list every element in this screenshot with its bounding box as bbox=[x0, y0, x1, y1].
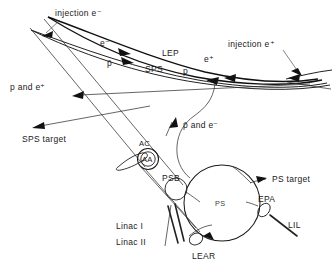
diagram-canvas: injection e⁻ injection e⁺ e⁻ LEP p̄ SPS … bbox=[0, 0, 333, 270]
injection-positron-arrowhead bbox=[291, 68, 302, 76]
label-antiproton: p̄ bbox=[107, 58, 112, 68]
pbar-electron-feed-group bbox=[166, 84, 215, 178]
label-p-and-epositron: p and e⁺ bbox=[10, 82, 46, 92]
psb-to-ps-link bbox=[186, 192, 200, 202]
label-sps-target: SPS target bbox=[22, 134, 66, 144]
label-psb: PSB bbox=[162, 173, 180, 183]
lear-ring-ellipse bbox=[187, 231, 205, 247]
sps-ring-arc-upper bbox=[31, 30, 327, 87]
label-epa: EPA bbox=[258, 194, 275, 204]
lear-group bbox=[187, 225, 214, 247]
label-injection-electron: injection e⁻ bbox=[55, 8, 102, 18]
pbar-electron-short-stem bbox=[166, 122, 172, 136]
label-lil: LIL bbox=[288, 220, 301, 230]
pbar-electron-feed-curve bbox=[177, 84, 215, 178]
label-linac-2: Linac II bbox=[116, 237, 146, 247]
label-positron: e⁺ bbox=[204, 54, 214, 64]
accelerator-diagram-figure: injection e⁻ injection e⁺ e⁻ LEP p̄ SPS … bbox=[0, 0, 333, 270]
sps-target-transfer-line bbox=[40, 106, 150, 126]
label-pbar-and-electron: p̄ and e⁻ bbox=[183, 120, 219, 130]
label-ps-target: PS target bbox=[272, 174, 310, 184]
label-ps: PS bbox=[215, 199, 225, 208]
label-lep: LEP bbox=[162, 48, 179, 58]
sps-ring-arc-lower bbox=[31, 30, 330, 89]
upper-left-to-ps-line bbox=[44, 19, 183, 185]
ps-target-upper-feed bbox=[232, 166, 251, 183]
label-ac: AC bbox=[139, 139, 150, 148]
label-injection-positron: injection e⁺ bbox=[228, 39, 275, 49]
label-lear: LEAR bbox=[192, 251, 215, 261]
label-aa: AA bbox=[142, 155, 153, 164]
epa-to-ps-line bbox=[246, 202, 258, 206]
epa-lil-group bbox=[246, 201, 297, 236]
label-proton: p bbox=[183, 66, 188, 76]
label-linac-1: Linac I bbox=[116, 221, 143, 231]
label-group: injection e⁻ injection e⁺ e⁻ LEP p̄ SPS … bbox=[10, 8, 310, 261]
linac-feed-line bbox=[165, 205, 171, 246]
injection-electron-leader bbox=[46, 20, 60, 33]
ps-target-arrowhead bbox=[256, 176, 267, 183]
upper-left-to-aa-line bbox=[30, 28, 145, 167]
label-sps: SPS bbox=[145, 64, 163, 74]
sps-target-arrowhead bbox=[32, 122, 45, 129]
p-and-epositron-arrowhead bbox=[72, 91, 84, 99]
electron-direction-arrowhead bbox=[118, 48, 131, 56]
label-electron: e⁻ bbox=[100, 38, 110, 48]
